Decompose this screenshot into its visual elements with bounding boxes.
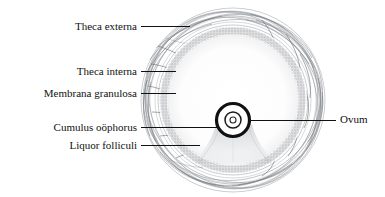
ovum-structure (217, 104, 250, 137)
label-theca-externa: Theca externa (0, 21, 137, 32)
label-liquor-folliculi: Liquor folliculi (0, 140, 137, 151)
label-ovum: Ovum (340, 114, 368, 125)
label-membrana-granulosa: Membrana granulosa (0, 88, 137, 99)
figure-canvas: Theca externa Theca interna Membrana gra… (0, 0, 385, 197)
label-cumulus-oophorus: Cumulus oöphorus (0, 122, 137, 133)
label-theca-interna: Theca interna (0, 66, 137, 77)
membrana-granulosa-layer (159, 26, 307, 174)
